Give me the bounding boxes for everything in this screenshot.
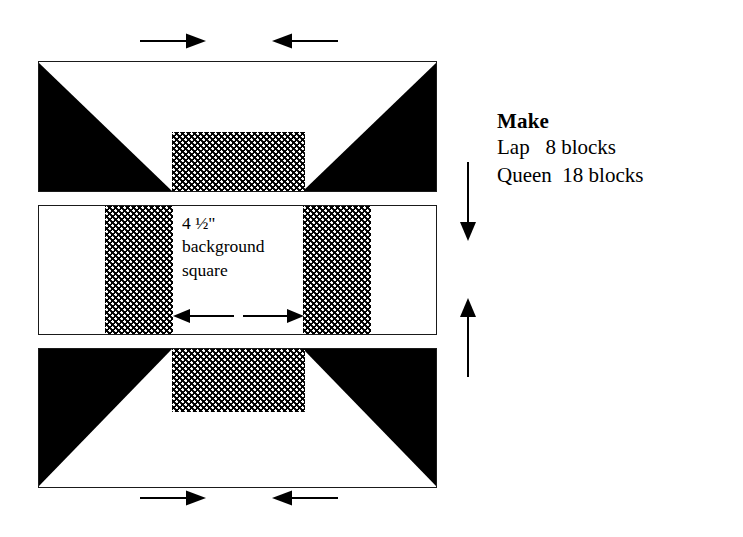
diagram-canvas: 4 ½" background square: [0, 0, 743, 537]
press-right-arrow-bottom-left: [138, 487, 208, 509]
print-strip-right: [303, 206, 371, 334]
dark-triangle-right: [303, 349, 436, 486]
block-row-top: [38, 61, 437, 192]
make-heading: Make: [497, 108, 737, 134]
press-left-arrow-top-right: [270, 30, 340, 52]
block-row-bottom: [38, 348, 437, 488]
print-fabric-rectangle-bottom: [172, 349, 305, 412]
dark-triangle-right: [303, 63, 436, 191]
print-strip-left: [105, 206, 173, 334]
make-instructions: Make Lap 8 blocks Queen 18 blocks: [497, 108, 737, 190]
press-up-arrow: [457, 297, 479, 379]
background-square-label: 4 ½" background square: [182, 212, 302, 282]
dark-triangle-left: [39, 63, 172, 191]
print-fabric-rectangle-top: [172, 132, 305, 192]
make-row-queen: Queen 18 blocks: [497, 162, 737, 190]
width-right-arrow: [243, 306, 305, 326]
dark-triangle-left: [39, 349, 172, 486]
press-down-arrow: [457, 160, 479, 242]
width-left-arrow: [172, 306, 234, 326]
make-row-lap: Lap 8 blocks: [497, 134, 737, 162]
press-right-arrow-top-left: [138, 30, 208, 52]
press-left-arrow-bottom-right: [270, 487, 340, 509]
